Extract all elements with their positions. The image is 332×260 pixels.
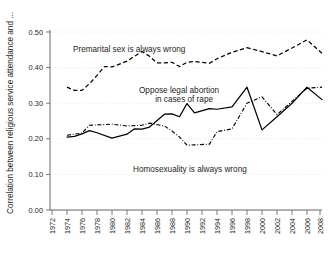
series-annotations: Premarital sex is always wrong Oppose le…: [73, 45, 247, 174]
x-tick-label-1984: 1984: [138, 218, 147, 234]
x-tick-label-1996: 1996: [228, 218, 237, 234]
x-tick-label-1982: 1982: [123, 218, 132, 234]
x-tick-label-1976: 1976: [78, 218, 87, 234]
x-axis: 1972 1974 1976 1978 1980 1982 1984 1986 …: [48, 210, 325, 234]
x-tick-label-2002: 2002: [273, 218, 282, 234]
y-tick-label-2: 0.20: [29, 134, 43, 143]
gridlines: [50, 32, 322, 210]
x-tick-label-1998: 1998: [243, 218, 252, 234]
annotation-homosexuality: Homosexuality is always wrong: [133, 165, 247, 174]
y-tick-label-4: 0.40: [29, 63, 43, 72]
y-tick-label-0: 0.00: [29, 206, 43, 215]
x-tick-label-2000: 2000: [258, 218, 267, 234]
x-tick-label-1990: 1990: [183, 218, 192, 234]
x-tick-label-2004: 2004: [288, 218, 297, 234]
y-axis: 0.00 0.10 0.20 0.30 0.40 0.50: [29, 28, 50, 215]
annotation-premarital-sex: Premarital sex is always wrong: [73, 45, 186, 54]
annotation-oppose-abortion-line1: Oppose legal abortion: [139, 86, 220, 95]
x-tick-label-2008: 2008: [316, 218, 325, 234]
x-tick-label-2006: 2006: [303, 218, 312, 234]
x-tick-label-1980: 1980: [108, 218, 117, 234]
y-tick-label-1: 0.10: [29, 170, 43, 179]
x-tick-label-1986: 1986: [153, 218, 162, 234]
chart-figure: Correlation between religious service at…: [0, 0, 332, 260]
x-tick-label-1994: 1994: [213, 218, 222, 234]
line-chart-svg: Correlation between religious service at…: [0, 0, 332, 260]
y-axis-title: Correlation between religious service at…: [6, 12, 15, 214]
x-tick-label-1972: 1972: [48, 218, 57, 234]
x-tick-label-1974: 1974: [63, 218, 72, 234]
y-tick-label-5: 0.50: [29, 28, 43, 37]
x-tick-label-1992: 1992: [198, 218, 207, 234]
y-tick-label-3: 0.30: [29, 99, 43, 108]
x-tick-label-1988: 1988: [168, 218, 177, 234]
y-axis-title-text: Correlation between religious service at…: [6, 12, 15, 214]
annotation-oppose-abortion-line2: in cases of rape: [155, 95, 213, 104]
x-tick-label-1978: 1978: [93, 218, 102, 234]
